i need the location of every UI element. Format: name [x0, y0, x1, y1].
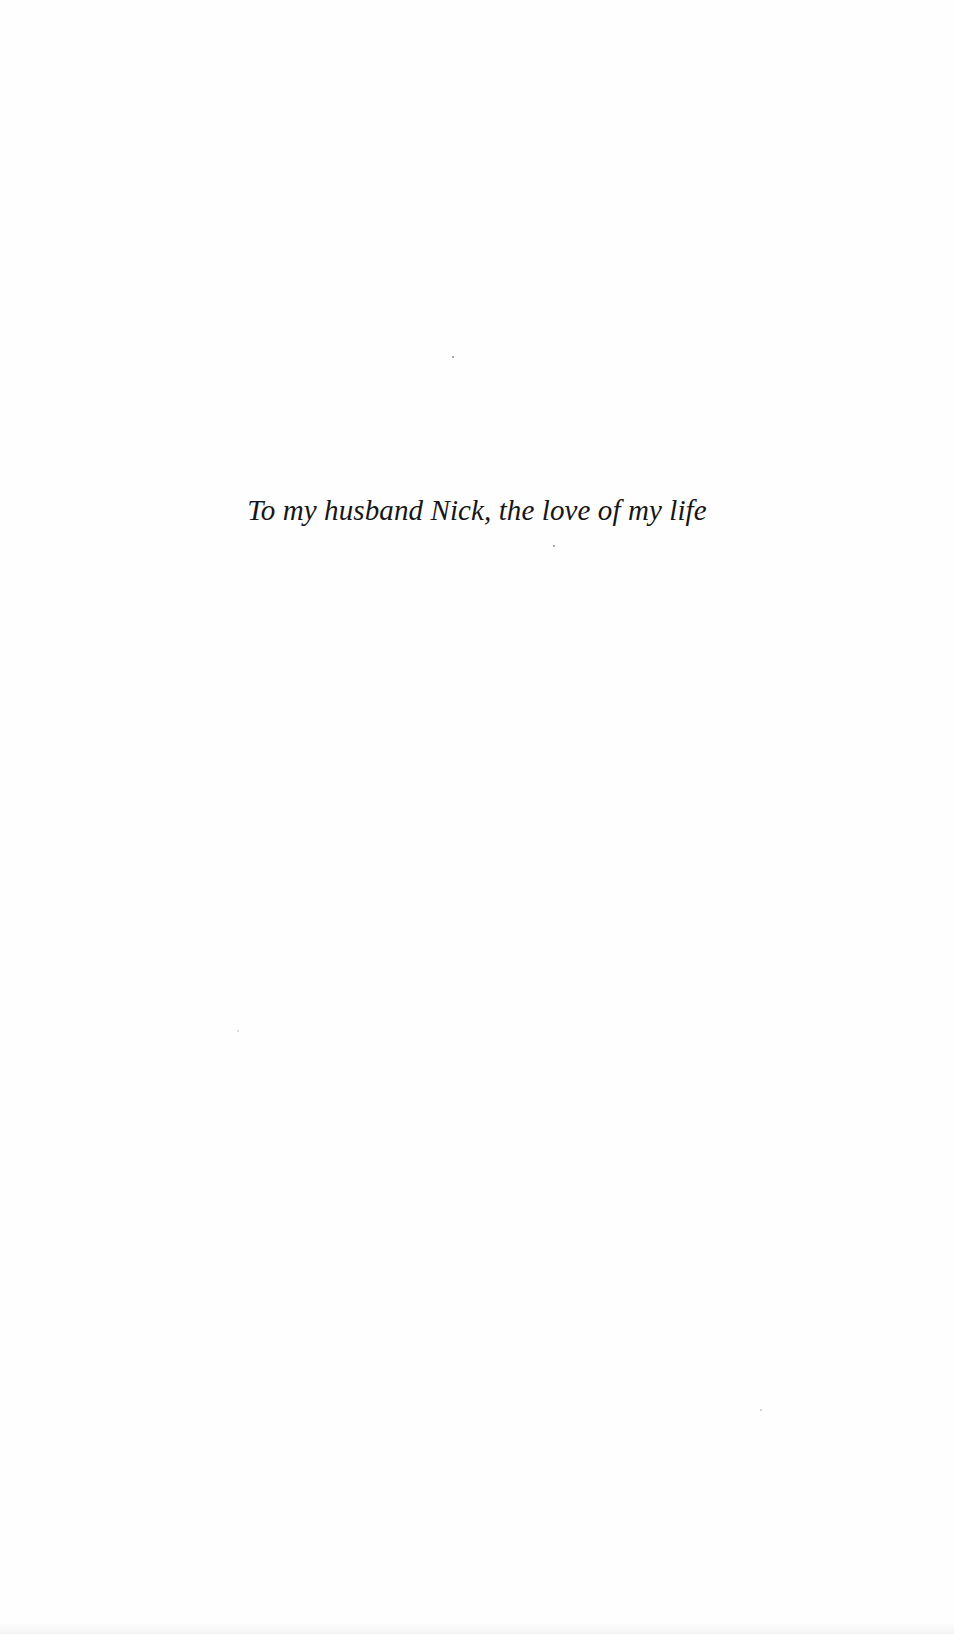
scan-bottom-edge	[0, 1622, 954, 1634]
dedication-text: To my husband Nick, the love of my life	[0, 493, 954, 527]
scan-speck	[553, 545, 555, 547]
document-page: To my husband Nick, the love of my life	[0, 0, 954, 1634]
scan-speck	[237, 1030, 239, 1032]
scan-speck	[760, 1409, 762, 1411]
scan-speck	[452, 356, 454, 358]
